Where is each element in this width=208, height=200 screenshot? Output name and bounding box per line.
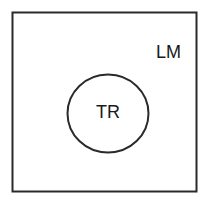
venn-diagram: LM TR: [0, 0, 208, 200]
inner-set-label: TR: [96, 102, 120, 122]
outer-set-label: LM: [156, 42, 181, 62]
